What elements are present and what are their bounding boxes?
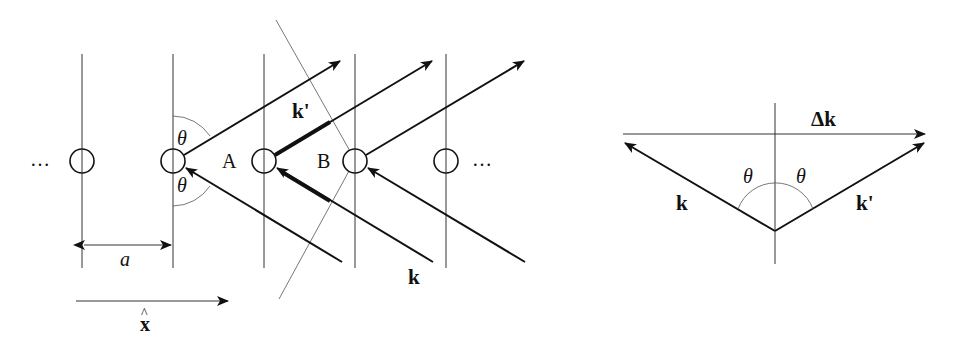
theta-left-label: θ — [743, 165, 753, 187]
outgoing-wavefront — [276, 20, 355, 160]
theta-upper-label: θ — [177, 127, 187, 149]
outgoing-ray-1 — [184, 61, 340, 155]
ellipsis-right: … — [472, 148, 492, 170]
path-difference-incoming — [282, 172, 330, 201]
spacing-label: a — [120, 248, 130, 270]
theta-right-label: θ — [796, 165, 806, 187]
outgoing-rays — [184, 61, 524, 155]
x-axis-hat: ^ — [141, 306, 148, 321]
theta-lower-label: θ — [177, 174, 187, 196]
k-prime-vector-label: k' — [856, 191, 874, 215]
k-prime-label: k' — [292, 99, 310, 123]
lattice-panel: a x ^ … … θ θ A B k' k — [30, 20, 525, 335]
k-vector — [625, 143, 775, 231]
atoms — [70, 149, 458, 173]
k-vector-label: k — [676, 191, 688, 215]
incoming-wavefront — [279, 160, 355, 299]
vector-triangle-panel: Δk k k' θ θ — [623, 103, 925, 264]
point-a-label: A — [222, 150, 237, 172]
bragg-diffraction-diagram: a x ^ … … θ θ A B k' k Δk k k' θ θ — [0, 0, 959, 348]
point-b-label: B — [317, 150, 330, 172]
k-label: k — [408, 265, 420, 289]
k-prime-vector — [775, 143, 924, 231]
outgoing-ray-3 — [366, 61, 524, 155]
ellipsis-left: … — [30, 148, 50, 170]
delta-k-label: Δk — [811, 107, 836, 131]
